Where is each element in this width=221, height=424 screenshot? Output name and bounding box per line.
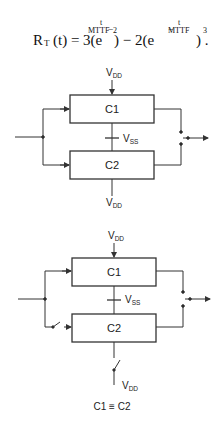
vdd-bottom-label: VDD	[106, 197, 122, 209]
vdd-top-label: VDD	[108, 230, 124, 242]
input-switch-icon	[53, 322, 60, 327]
vss-label: VSS	[123, 133, 139, 145]
c2-label: C2	[107, 322, 121, 334]
vdd-bottom-label: VDD	[122, 380, 138, 392]
c2-label: C2	[105, 159, 119, 171]
diagram-2	[18, 243, 210, 385]
diagram-1	[15, 80, 208, 196]
c1-label: C1	[107, 266, 121, 278]
vss-label: VSS	[125, 294, 141, 306]
equivalence-caption: C1 ≡ C2	[94, 401, 131, 412]
supply-switch-icon	[114, 360, 120, 370]
vdd-top-label: VDD	[106, 67, 122, 79]
circuit-diagrams: VDD C1 VSS C2 VDD VDD C1 VSS C2 VDD	[0, 0, 221, 424]
c1-label: C1	[105, 103, 119, 115]
